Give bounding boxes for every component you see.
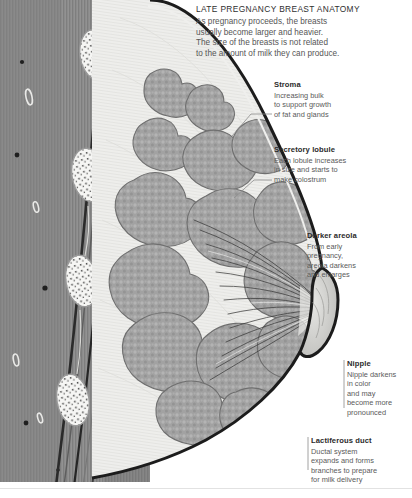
callout-darker-areola: Darker areola From early pregnancy, areo… [307,231,357,280]
callout-lactiferous-duct-line-1: Ductal system [311,447,377,456]
callout-nipple-line-5: pronounced [347,408,396,417]
callout-secretory-lobule-title: Secretory lobule [274,145,346,155]
intro-line-2: usually become larger and heavier. [196,28,410,39]
callout-darker-areola-line-1: From early [307,242,357,251]
callout-lactiferous-duct: Lactiferous duct Ductal system expands a… [311,436,377,485]
breast-body [92,0,330,478]
callout-lactiferous-duct-line-4: for milk delivery [311,475,377,484]
callout-stroma: Stroma Increasing bulk to support growth… [274,80,331,119]
intro-line-3: The size of the breasts is not related [196,38,410,49]
callout-nipple-line-1: Nipple darkens [347,370,396,379]
callout-stroma-line-2: to support growth [274,100,331,109]
intro-line-4: to the amount of milk they can produce. [196,49,410,60]
callout-lactiferous-duct-title: Lactiferous duct [311,436,377,446]
illustration-page: LATE PREGNANCY BREAST ANATOMY As pregnan… [0,0,412,498]
callout-darker-areola-body: From early pregnancy, areola darkens and… [307,242,357,280]
callout-stroma-title: Stroma [274,80,331,90]
callout-darker-areola-title: Darker areola [307,231,357,241]
breast-anatomy-illustration [0,0,340,482]
callout-lactiferous-duct-line-3: branches to prepare [311,466,377,475]
callout-nipple-line-4: become more [347,398,396,407]
callout-darker-areola-line-3: areola darkens [307,261,357,270]
callout-lactiferous-duct-body: Ductal system expands and forms branches… [311,447,377,485]
callout-stroma-line-1: Increasing bulk [274,91,331,100]
callout-nipple-title: Nipple [347,359,396,369]
intro-line-1: As pregnancy proceeds, the breasts [196,17,410,28]
callout-lactiferous-duct-line-2: expands and forms [311,456,377,465]
callout-nipple: Nipple Nipple darkens in color and may b… [347,359,396,417]
headline-block: LATE PREGNANCY BREAST ANATOMY As pregnan… [196,3,410,59]
footer-divider [0,488,412,489]
callout-secretory-lobule-line-2: in size and starts to [274,165,346,174]
callout-secretory-lobule-line-1: Each lobule increases [274,156,346,165]
callout-secretory-lobule-body: Each lobule increases in size and starts… [274,156,346,184]
callout-nipple-line-3: and may [347,389,396,398]
page-title: LATE PREGNANCY BREAST ANATOMY [196,3,410,15]
callout-darker-areola-line-4: and enlarges [307,270,357,279]
intro-paragraph: As pregnancy proceeds, the breasts usual… [196,17,410,59]
callout-nipple-line-2: in color [347,379,396,388]
callout-stroma-line-3: of fat and glands [274,110,331,119]
callout-stroma-body: Increasing bulk to support growth of fat… [274,91,331,119]
callout-secretory-lobule-line-3: make colostrum [274,175,346,184]
callout-secretory-lobule: Secretory lobule Each lobule increases i… [274,145,346,184]
callout-nipple-body: Nipple darkens in color and may become m… [347,370,396,417]
callout-darker-areola-line-2: pregnancy, [307,251,357,260]
